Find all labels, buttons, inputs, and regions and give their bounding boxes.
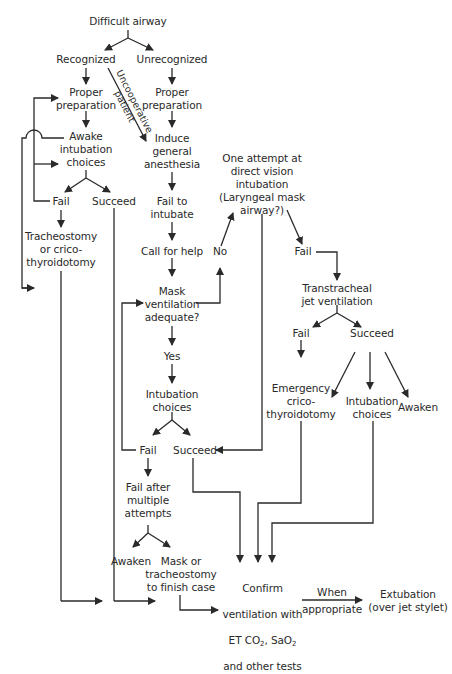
node-tt-fail: Fail — [293, 327, 310, 340]
node-mask-ventilation: Mask ventilation adequate? — [145, 285, 200, 324]
node-center-succeed: Succeed — [173, 444, 217, 457]
label-when: When — [317, 586, 347, 599]
node-left-proper-preparation: Proper preparation — [56, 86, 116, 112]
node-right-fail: Fail — [295, 245, 312, 258]
label-appropriate: appropriate — [302, 603, 362, 616]
node-fail-after-multiple: Fail after multiple attempts — [125, 481, 172, 520]
node-yes: Yes — [164, 350, 181, 363]
node-no: No — [213, 245, 227, 258]
node-call-for-help: Call for help — [141, 245, 203, 258]
node-transtracheal-jet: Transtracheal jet ventilation — [301, 282, 372, 308]
node-left-succeed: Succeed — [92, 195, 136, 208]
node-recognized: Recognized — [56, 53, 115, 66]
confirm-sao: , SaO — [264, 634, 292, 646]
node-center-fail: Fail — [140, 444, 157, 457]
node-emergency-crico: Emergency crico- thyroidotomy — [266, 382, 335, 421]
node-one-attempt-direct-vision: One attempt at direct vision intubation … — [219, 152, 305, 217]
node-unrecognized: Unrecognized — [137, 53, 208, 66]
node-induce-anesthesia: Induce general anesthesia — [144, 132, 200, 171]
confirm-line-2: ventilation with — [223, 608, 303, 620]
confirm-et-co: ET CO — [229, 634, 260, 646]
node-awake-intubation-choices: Awake intubation choices — [60, 130, 113, 169]
node-left-fail: Fail — [53, 195, 70, 208]
node-right-intubation-choices: Intubation choices — [346, 395, 399, 421]
confirm-line-4: and other tests — [223, 660, 302, 672]
node-difficult-airway: Difficult airway — [89, 15, 166, 28]
node-extubation: Extubation (over jet stylet) — [368, 588, 447, 614]
confirm-sub-2: 2 — [292, 640, 296, 648]
node-fail-to-intubate: Fail to intubate — [150, 195, 193, 221]
node-mask-or-tracheostomy: Mask or tracheostomy to finish case — [145, 555, 216, 594]
node-tracheostomy: Tracheostomy or crico- thyroidotomy — [25, 230, 97, 269]
node-center-proper-preparation: Proper preparation — [142, 86, 202, 112]
node-right-awaken: Awaken — [398, 401, 438, 414]
node-tt-succeed: Succeed — [350, 327, 394, 340]
node-confirm-ventilation: Confirm ventilation with ET CO2, SaO2 an… — [210, 569, 303, 674]
confirm-line-1: Confirm — [242, 582, 283, 594]
node-center-intubation-choices: Intubation choices — [146, 388, 199, 414]
